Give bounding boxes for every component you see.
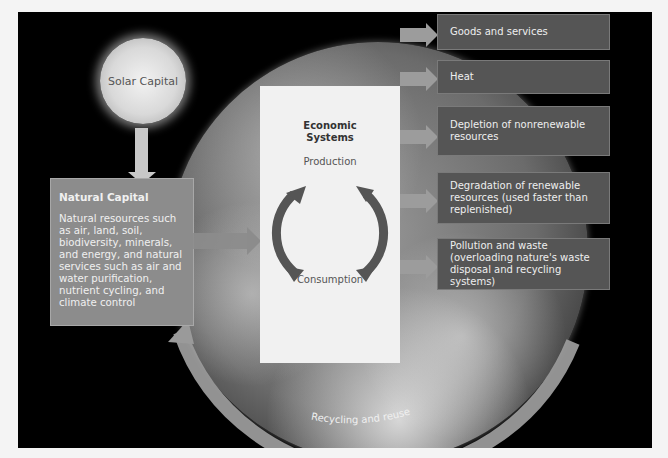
natural-capital-body: Natural resources such as air, land, soi… — [59, 213, 191, 309]
diagram-panel: Recycling and reuse Solar Capital Natura… — [18, 12, 652, 448]
solar-capital-label: Solar Capital — [108, 75, 178, 88]
output-heat: Heat — [437, 60, 610, 94]
solar-arrow-icon — [135, 128, 148, 174]
output-heat-label: Heat — [450, 71, 474, 83]
output-goods-and-services: Goods and services — [437, 14, 610, 50]
output-pollution-label: Pollution and waste (overloading nature'… — [450, 240, 608, 288]
production-consumption-cycle-icon — [260, 86, 400, 363]
natural-capital-title: Natural Capital — [59, 191, 149, 203]
solar-capital: Solar Capital — [100, 38, 186, 124]
natural-to-economy-arrow-icon — [193, 233, 247, 249]
output-pollution: Pollution and waste (overloading nature'… — [437, 238, 610, 290]
svg-text:Recycling and reuse: Recycling and reuse — [310, 406, 411, 426]
output-goods-label: Goods and services — [450, 26, 548, 38]
natural-to-economy-arrow-head-icon — [247, 227, 261, 255]
recycling-label: Recycling and reuse — [310, 406, 411, 426]
output-degradation: Degradation of renewable resources (used… — [437, 172, 610, 224]
output-depletion: Depletion of nonrenewable resources — [437, 106, 610, 156]
output-depletion-label: Depletion of nonrenewable resources — [450, 119, 600, 143]
natural-capital-box: Natural Capital Natural resources such a… — [50, 178, 194, 326]
output-degradation-label: Degradation of renewable resources (used… — [450, 180, 605, 216]
